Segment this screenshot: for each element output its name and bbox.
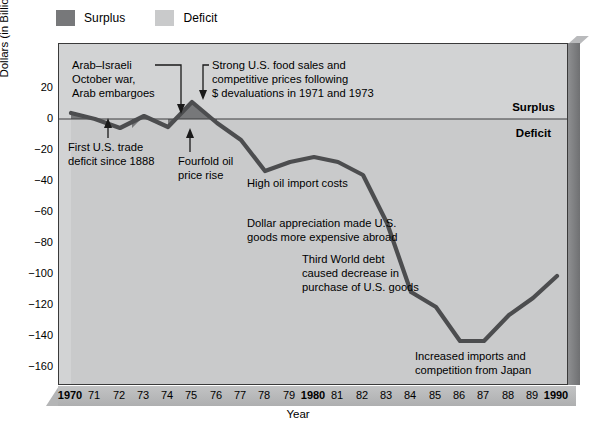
y-tick-m160: −160 — [28, 360, 53, 372]
annotation-fourfold-oil: Fourfold oil price rise — [178, 154, 233, 182]
x-tick-75: 75 — [185, 389, 197, 401]
x-tick-1990: 1990 — [544, 389, 568, 401]
x-tick-85: 85 — [429, 389, 441, 401]
x-tick-77: 77 — [234, 389, 246, 401]
chart-page: Surplus Deficit 20 0 −20 −40 −60 −80 −10… — [0, 0, 596, 427]
x-tick-71: 71 — [88, 389, 100, 401]
x-tick-86: 86 — [453, 389, 465, 401]
x-tick-79: 79 — [283, 389, 295, 401]
x-tick-72: 72 — [113, 389, 125, 401]
x-tick-88: 88 — [502, 389, 514, 401]
plot-3d-right-face — [568, 43, 580, 385]
y-axis-title: Dollars (in Billions) — [0, 0, 10, 120]
annotation-third-world-debt: Third World debt caused decrease in purc… — [302, 252, 419, 294]
x-axis-title: Year — [0, 408, 596, 420]
legend-item-surplus: Surplus — [56, 10, 125, 26]
y-tick-m40: −40 — [34, 174, 53, 186]
annotation-high-oil-import: High oil import costs — [247, 176, 348, 190]
y-tick-m20: −20 — [34, 143, 53, 155]
annotation-increased-imports: Increased imports and competition from J… — [415, 349, 531, 377]
x-tick-83: 83 — [380, 389, 392, 401]
legend-label-deficit: Deficit — [183, 11, 217, 25]
chart-legend: Surplus Deficit — [56, 10, 217, 26]
x-tick-89: 89 — [526, 389, 538, 401]
annotation-strong-food-sales: Strong U.S. food sales and competitive p… — [212, 58, 374, 100]
plot-area: Arab–Israeli October war, Arab embargoes… — [58, 43, 568, 385]
y-tick-m120: −120 — [28, 298, 53, 310]
plot-area-wrapper: Arab–Israeli October war, Arab embargoes… — [58, 43, 576, 385]
y-tick-m60: −60 — [34, 205, 53, 217]
x-axis-band: 1970 71 72 73 74 75 76 77 78 79 1980 81 … — [58, 386, 576, 406]
y-tick-m140: −140 — [28, 329, 53, 341]
x-tick-78: 78 — [258, 389, 270, 401]
annotation-dollar-appreciation: Dollar appreciation made U.S. goods more… — [247, 216, 398, 244]
y-tick-m100: −100 — [28, 267, 53, 279]
zone-label-deficit: Deficit — [516, 127, 551, 139]
legend-swatch-icon-deficit — [155, 10, 174, 26]
x-tick-81: 81 — [331, 389, 343, 401]
zone-label-surplus: Surplus — [512, 101, 555, 113]
x-tick-82: 82 — [356, 389, 368, 401]
x-tick-76: 76 — [210, 389, 222, 401]
y-tick-20: 20 — [41, 81, 53, 93]
y-tick-0: 0 — [47, 112, 53, 124]
y-tick-m80: −80 — [34, 236, 53, 248]
x-tick-74: 74 — [161, 389, 173, 401]
legend-item-deficit: Deficit — [155, 10, 217, 26]
x-tick-1980: 1980 — [301, 389, 325, 401]
annotation-arab-israeli: Arab–Israeli October war, Arab embargoes — [72, 58, 155, 100]
x-tick-1970: 1970 — [58, 389, 82, 401]
annotation-first-trade-deficit: First U.S. trade deficit since 1888 — [68, 140, 154, 168]
x-tick-84: 84 — [404, 389, 416, 401]
legend-swatch-icon-surplus — [56, 10, 75, 26]
legend-label-surplus: Surplus — [84, 11, 125, 25]
x-tick-87: 87 — [477, 389, 489, 401]
x-tick-73: 73 — [137, 389, 149, 401]
